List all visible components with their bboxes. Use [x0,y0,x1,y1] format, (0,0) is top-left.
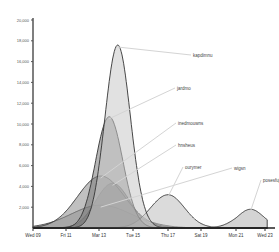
x-tick-label: Fri 11 [60,233,72,238]
area-chart: wigsnhnsheusinedmouwnsourymerposesfujuja… [0,0,279,252]
y-tick-label: 18,000 [17,38,30,43]
x-tick-label: Mon 21 [228,233,244,238]
x-tick-label: Thu 17 [161,233,176,238]
series-areas [33,45,267,228]
y-tick-label: 20,000 [17,18,30,23]
series-label-inedmouwns: inedmouwns [178,121,204,126]
series-label-ourymer: ourymer [185,165,202,170]
leader-line-ourymer [168,167,183,197]
y-tick-label: 6,000 [19,163,30,168]
series-area-kapdimnu[interactable] [33,45,267,228]
y-tick-label: 12,000 [17,101,30,106]
leader-line-posesfuju [251,180,262,211]
y-tick-label: 14,000 [17,80,30,85]
x-tick-label: Wed 23 [257,233,273,238]
series-label-wigsn: wigsn [234,166,246,171]
y-tick-label: 16,000 [17,59,30,64]
series-label-kapdimnu: kapdimnu [193,53,213,58]
x-tick-label: Mar 13 [92,233,107,238]
x-tick-label: Tue 15 [126,233,140,238]
series-label-jardmo: jardmo [176,86,191,91]
leader-line-kapdimnu [118,47,191,55]
series-label-hnsheus: hnsheus [178,143,196,148]
x-tick-label: Sat 19 [194,233,208,238]
chart-canvas: wigsnhnsheusinedmouwnsourymerposesfujuja… [0,0,279,252]
y-axis-ticks: 2,0004,0006,0008,00010,00012,00014,00016… [17,18,33,210]
series-label-posesfuju: posesfuju [263,178,279,183]
x-tick-label: Wed 09 [25,233,41,238]
y-tick-label: 10,000 [17,122,30,127]
y-tick-label: 8,000 [19,142,30,147]
y-tick-label: 2,000 [19,205,30,210]
x-axis-ticks: Wed 09Fri 11Mar 13Tue 15Thu 17Sat 19Mon … [25,228,273,238]
y-tick-label: 4,000 [19,184,30,189]
